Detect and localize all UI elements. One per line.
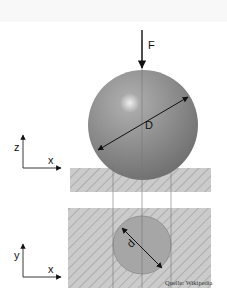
diagram-svg [0,0,227,296]
top-band [0,0,227,22]
indenter-ball [88,70,198,180]
z-axis-label: z [14,142,20,153]
x-axis-bottom-label: x [48,264,54,275]
source-credit: Quelle: Wikipedia [165,279,212,286]
brinell-diagram: F D d z x y x Quelle: Wikipedia [0,0,227,296]
ball-diameter-label: D [145,120,153,131]
x-axis-top-label: x [48,155,54,166]
force-label: F [148,40,155,51]
y-axis-label: y [14,250,20,261]
